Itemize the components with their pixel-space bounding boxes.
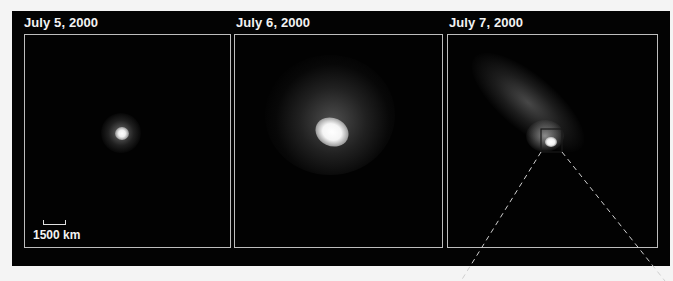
callout-line-right — [562, 152, 665, 281]
callout-overlay — [0, 0, 673, 281]
callout-line-left — [461, 152, 541, 281]
zoom-box — [541, 129, 562, 152]
